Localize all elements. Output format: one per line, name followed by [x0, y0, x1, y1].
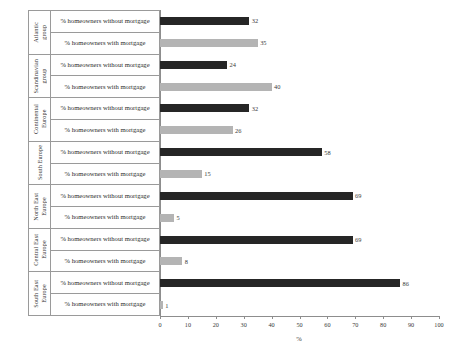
x-axis-tick-label: 60: [324, 321, 330, 328]
category-name-cell: North East Europe: [29, 185, 51, 228]
x-axis-tick-mark: [188, 316, 189, 319]
x-axis-tick-mark: [411, 316, 412, 319]
plot-group: 695: [160, 185, 470, 229]
bar: [160, 39, 258, 47]
series-label-stack: % homeowners without mortgage% homeowner…: [51, 98, 159, 141]
bar-row: 5: [160, 207, 470, 229]
series-label: % homeowners with mortgage: [51, 293, 159, 315]
category-name-label: Central East Europe: [32, 234, 47, 266]
homeownership-bar-chart: Atlantic group% homeowners without mortg…: [0, 0, 470, 362]
bar: [160, 236, 353, 244]
bar: [160, 170, 202, 178]
category-name-cell: Continental Europe: [29, 98, 51, 141]
series-label: % homeowners without mortgage: [51, 185, 159, 206]
bar-value-label: 86: [402, 280, 408, 287]
category-name-label: Continental Europe: [32, 104, 47, 134]
series-label: % homeowners without mortgage: [51, 55, 159, 76]
bar: [160, 257, 182, 265]
series-label-stack: % homeowners without mortgage% homeowner…: [51, 11, 159, 54]
x-axis-title: %: [296, 335, 302, 342]
series-label: % homeowners with mortgage: [51, 206, 159, 228]
category-name-label: North East Europe: [32, 193, 47, 221]
x-axis-tick-label: 40: [269, 321, 275, 328]
x-axis-tick-mark: [300, 316, 301, 319]
bar: [160, 214, 174, 222]
plot-group: 3235: [160, 10, 470, 54]
category-name-label: South Europe: [36, 145, 44, 180]
bar-row: 1: [160, 294, 470, 316]
plot-area: 3235244032265815695698861: [160, 0, 470, 316]
series-label-stack: % homeowners without mortgage% homeowner…: [51, 229, 159, 272]
bar-value-label: 69: [355, 236, 361, 243]
x-axis-tick-mark: [383, 316, 384, 319]
series-label: % homeowners without mortgage: [51, 272, 159, 293]
category-name-cell: South East Europe: [29, 272, 51, 315]
x-axis-tick-mark: [160, 316, 161, 319]
bar-value-label: 58: [324, 149, 330, 156]
bar: [160, 83, 272, 91]
category-label-table: Atlantic group% homeowners without mortg…: [0, 0, 160, 316]
series-label: % homeowners with mortgage: [51, 32, 159, 54]
bar-value-label: 24: [229, 61, 235, 68]
plot-group: 3226: [160, 97, 470, 141]
bar-row: 58: [160, 141, 470, 163]
series-label: % homeowners without mortgage: [51, 229, 159, 250]
bar-row: 69: [160, 229, 470, 251]
bar-row: 8: [160, 250, 470, 272]
plot-group: 2440: [160, 54, 470, 98]
bar-row: 32: [160, 10, 470, 32]
category-name-label: South East Europe: [32, 280, 47, 308]
plot-group: 861: [160, 272, 470, 316]
x-axis-tick-label: 90: [408, 321, 414, 328]
x-axis-tick-mark: [272, 316, 273, 319]
bar-value-label: 1: [165, 302, 168, 309]
bar-row: 86: [160, 272, 470, 294]
bar: [160, 279, 400, 287]
category-name-label: Scandinavian group: [32, 59, 47, 94]
series-label: % homeowners without mortgage: [51, 142, 159, 163]
bar-value-label: 40: [274, 83, 280, 90]
x-axis-tick-label: 70: [352, 321, 358, 328]
category-group-row: South Europe% homeowners without mortgag…: [28, 141, 160, 185]
x-axis-tick-mark: [216, 316, 217, 319]
category-name-cell: Scandinavian group: [29, 55, 51, 98]
series-label: % homeowners with mortgage: [51, 163, 159, 185]
series-label-stack: % homeowners without mortgage% homeowner…: [51, 55, 159, 98]
bar-value-label: 69: [355, 192, 361, 199]
category-group-row: Atlantic group% homeowners without mortg…: [28, 10, 160, 54]
x-axis-tick-mark: [244, 316, 245, 319]
x-axis-tick-label: 20: [213, 321, 219, 328]
category-name-cell: Atlantic group: [29, 11, 51, 54]
bar-value-label: 5: [176, 214, 179, 221]
series-label: % homeowners without mortgage: [51, 11, 159, 32]
series-label-stack: % homeowners without mortgage% homeowner…: [51, 185, 159, 228]
series-label-stack: % homeowners without mortgage% homeowner…: [51, 272, 159, 315]
bar-value-label: 32: [252, 105, 258, 112]
bar-value-label: 35: [260, 39, 266, 46]
x-axis-tick-label: 0: [158, 321, 161, 328]
x-axis-tick-label: 50: [296, 321, 302, 328]
x-axis-tick-label: 80: [380, 321, 386, 328]
x-axis-tick-mark: [439, 316, 440, 319]
bar: [160, 148, 322, 156]
category-group-row: Scandinavian group% homeowners without m…: [28, 54, 160, 98]
plot-group: 5815: [160, 141, 470, 185]
category-group-row: Central East Europe% homeowners without …: [28, 228, 160, 272]
bar-value-label: 32: [252, 17, 258, 24]
bar: [160, 192, 353, 200]
category-name-cell: South Europe: [29, 142, 51, 185]
series-label: % homeowners with mortgage: [51, 250, 159, 272]
bar-value-label: 8: [185, 258, 188, 265]
category-group-row: South East Europe% homeowners without mo…: [28, 271, 160, 316]
x-axis-tick-mark: [327, 316, 328, 319]
bar-row: 32: [160, 97, 470, 119]
series-label: % homeowners with mortgage: [51, 119, 159, 141]
bar: [160, 61, 227, 69]
category-name-label: Atlantic group: [32, 22, 47, 43]
series-label-stack: % homeowners without mortgage% homeowner…: [51, 142, 159, 185]
bar-row: 26: [160, 119, 470, 141]
bar: [160, 17, 249, 25]
series-label: % homeowners with mortgage: [51, 75, 159, 97]
bar-row: 35: [160, 32, 470, 54]
bar: [160, 104, 249, 112]
